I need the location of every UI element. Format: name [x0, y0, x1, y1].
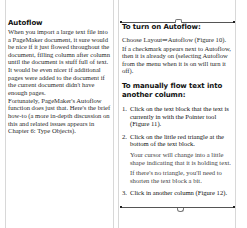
turn-on-autoflow-heading: To turn on Autoflow:: [122, 23, 234, 32]
step-text: Click on the little red triangle at the …: [130, 133, 234, 148]
autoflow-heading: Autoflow: [8, 19, 112, 28]
step-number: 1.: [122, 105, 130, 128]
step-note: If there's no triangle, you'll need to s…: [130, 169, 234, 184]
left-text-column: Autoflow When you import a large text fi…: [8, 19, 112, 135]
step-1: 1. Click on the text block that the text…: [122, 105, 234, 128]
paragraph-1: When you import a large text file into a…: [8, 28, 112, 96]
column-guide-mid-right: [118, 0, 119, 228]
step-text: Click on the text block that the text is…: [130, 105, 234, 128]
text-block-handle-bottom-left[interactable]: [120, 206, 122, 208]
step-note: Your cursor will change into a little sh…: [130, 151, 234, 166]
step-number: 2.: [122, 133, 130, 185]
step-3: 3. Click in another column (Figure 12).: [122, 189, 234, 197]
step-2: 2. Click on the little red triangle at t…: [122, 133, 234, 185]
autoflow-instruction-note: If a checkmark appears next to Autoflow,…: [122, 45, 234, 75]
windowshade-bottom-handle[interactable]: [177, 208, 184, 212]
column-guide-right: [235, 0, 236, 228]
step-number: 3.: [122, 189, 130, 197]
autoflow-instruction: Choose Layout⇒Autoflow (Figure 10).: [122, 36, 234, 44]
text-block-handle-bottom-right[interactable]: [233, 206, 235, 208]
right-text-block[interactable]: To turn on Autoflow: Choose Layout⇒Autof…: [122, 19, 234, 197]
paragraph-2: Fortunately, PageMaker's Autoflow functi…: [8, 97, 112, 135]
column-guide-left: [5, 0, 6, 228]
manual-flow-heading: To manually flow text into another colum…: [122, 82, 234, 100]
step-text: Click in another column (Figure 12).: [130, 189, 234, 197]
column-guide-mid-left: [113, 0, 114, 228]
